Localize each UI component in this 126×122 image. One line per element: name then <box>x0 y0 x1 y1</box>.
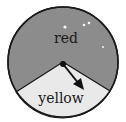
sparkle-icon <box>102 46 104 48</box>
spinner: red yellow <box>0 0 126 122</box>
sparkle-icon <box>63 25 66 28</box>
section-label-red: red <box>54 30 78 46</box>
spinner-diagram: red yellow <box>0 0 126 122</box>
sparkle-icon <box>83 24 86 27</box>
sparkle-icon <box>88 22 91 25</box>
section-label-yellow: yellow <box>37 90 84 106</box>
pivot-icon <box>60 61 66 67</box>
